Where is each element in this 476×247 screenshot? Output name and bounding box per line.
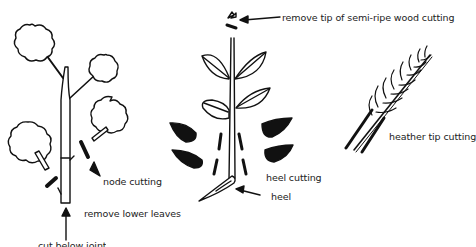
- label-remove-lower-leaves: remove lower leaves: [84, 208, 181, 219]
- label-node-cutting: node cutting: [103, 176, 162, 187]
- label-cut-below-joint: cut below joint: [38, 240, 106, 247]
- label-heather-tip-cutting: heather tip cutting: [389, 131, 476, 142]
- label-remove-tip: remove tip of semi-ripe wood cutting: [282, 12, 454, 23]
- label-heel: heel: [271, 191, 291, 202]
- label-heel-cutting: heel cutting: [266, 172, 322, 183]
